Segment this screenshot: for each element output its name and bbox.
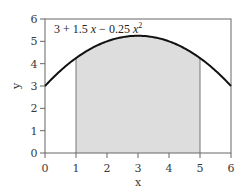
x-tick-label: 0 — [42, 162, 49, 175]
x-tick-label: 3 — [135, 162, 142, 175]
y-tick-label: 5 — [31, 35, 38, 48]
area-under-curve-chart: 0123456 0123456 3 + 1.5 x − 0.25 x2 x y — [0, 0, 246, 193]
x-tick-label: 5 — [197, 162, 204, 175]
y-axis-ticks: 0123456 — [31, 13, 46, 160]
y-tick-label: 4 — [31, 58, 38, 71]
y-tick-label: 0 — [31, 147, 38, 160]
y-tick-label: 3 — [31, 80, 38, 93]
x-tick-label: 6 — [228, 162, 235, 175]
x-axis-label: x — [135, 176, 142, 189]
y-axis-label: y — [10, 82, 23, 90]
x-tick-label: 4 — [166, 162, 173, 175]
y-tick-label: 6 — [31, 13, 38, 26]
x-tick-label: 2 — [104, 162, 111, 175]
x-tick-label: 1 — [73, 162, 80, 175]
y-tick-label: 2 — [31, 102, 38, 115]
x-axis-ticks: 0123456 — [42, 153, 235, 175]
equation-annotation: 3 + 1.5 x − 0.25 x2 — [54, 21, 142, 36]
y-tick-label: 1 — [31, 125, 38, 138]
shaded-area — [76, 36, 200, 153]
